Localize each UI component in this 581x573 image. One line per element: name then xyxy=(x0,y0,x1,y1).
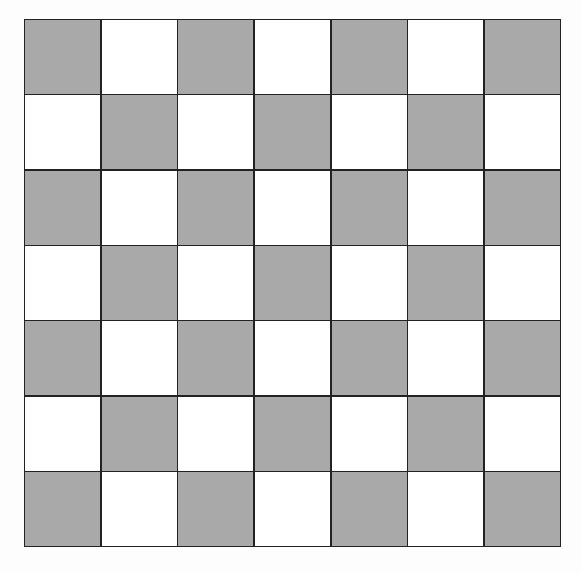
dark-square xyxy=(102,246,177,320)
light-square xyxy=(332,95,407,169)
light-square xyxy=(408,321,483,395)
light-square xyxy=(102,171,177,245)
dark-square xyxy=(25,20,100,94)
dark-square xyxy=(332,472,407,546)
dark-square xyxy=(102,397,177,471)
dark-square xyxy=(408,397,483,471)
light-square xyxy=(255,472,330,546)
dark-square xyxy=(178,472,253,546)
light-square xyxy=(25,397,100,471)
dark-square xyxy=(255,397,330,471)
dark-square xyxy=(485,171,560,245)
light-square xyxy=(178,246,253,320)
dark-square xyxy=(255,95,330,169)
dark-square xyxy=(25,472,100,546)
light-square xyxy=(485,397,560,471)
dark-square xyxy=(408,246,483,320)
light-square xyxy=(102,20,177,94)
dark-square xyxy=(485,20,560,94)
dark-square xyxy=(102,95,177,169)
dark-square xyxy=(485,472,560,546)
dark-square xyxy=(332,171,407,245)
light-square xyxy=(332,397,407,471)
light-square xyxy=(408,20,483,94)
light-square xyxy=(102,321,177,395)
dark-square xyxy=(255,246,330,320)
light-square xyxy=(408,472,483,546)
dark-square xyxy=(332,321,407,395)
dark-square xyxy=(408,95,483,169)
light-square xyxy=(408,171,483,245)
light-square xyxy=(255,20,330,94)
dark-square xyxy=(332,20,407,94)
light-square xyxy=(25,95,100,169)
dark-square xyxy=(25,171,100,245)
dark-square xyxy=(178,20,253,94)
light-square xyxy=(485,246,560,320)
light-square xyxy=(255,321,330,395)
dark-square xyxy=(25,321,100,395)
light-square xyxy=(332,246,407,320)
light-square xyxy=(102,472,177,546)
dark-square xyxy=(178,171,253,245)
light-square xyxy=(178,397,253,471)
light-square xyxy=(25,246,100,320)
dark-square xyxy=(485,321,560,395)
light-square xyxy=(255,171,330,245)
dark-square xyxy=(178,321,253,395)
light-square xyxy=(178,95,253,169)
checkerboard-grid xyxy=(24,19,561,547)
light-square xyxy=(485,95,560,169)
